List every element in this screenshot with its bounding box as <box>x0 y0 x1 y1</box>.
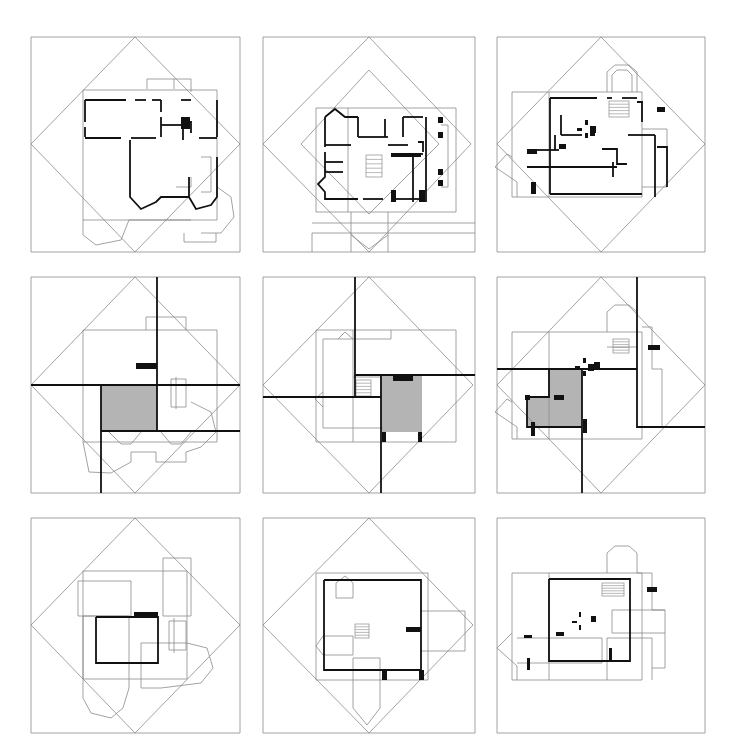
stair-outline <box>366 155 382 177</box>
stair-icon <box>356 380 371 396</box>
thin-line <box>316 636 353 655</box>
solid-wall-block <box>579 625 581 630</box>
thin-line <box>78 581 131 616</box>
heavy-wall-line <box>418 142 423 152</box>
thin-line <box>83 90 217 220</box>
thin-line <box>263 37 471 252</box>
solid-wall-block <box>418 432 422 442</box>
thin-line <box>607 305 637 332</box>
thin-line <box>323 330 391 339</box>
heavy-wall-line <box>637 277 705 427</box>
shaded-core-area <box>527 397 549 427</box>
solid-wall-block <box>391 190 396 202</box>
plan-panel-r2c1 <box>31 277 240 493</box>
thin-line <box>171 379 186 407</box>
stair-outline <box>609 101 629 117</box>
thin-line <box>495 399 512 412</box>
thin-line <box>495 154 512 167</box>
stair-icon <box>355 624 369 638</box>
thin-line <box>497 37 705 252</box>
heavy-wall-line <box>130 140 189 209</box>
diagram-figure <box>0 0 729 756</box>
solid-wall-block <box>647 587 657 592</box>
solid-wall-block <box>419 190 425 202</box>
heavy-wall-line <box>657 147 667 187</box>
thin-line <box>612 70 632 92</box>
solid-wall-block <box>591 616 596 622</box>
plan-drawing <box>31 518 240 733</box>
cross-mark <box>588 364 594 371</box>
plan-drawing <box>263 277 475 493</box>
plan-panel-r3c3 <box>497 518 705 733</box>
solid-wall-block <box>559 144 566 149</box>
heavy-wall-line <box>637 102 642 122</box>
solid-wall-block <box>406 627 421 632</box>
thin-line <box>316 573 428 680</box>
solid-wall-block <box>657 107 665 112</box>
solid-wall-block <box>554 395 564 400</box>
thin-line <box>31 518 240 733</box>
heavy-wall-line <box>355 277 475 375</box>
plan-drawing <box>31 277 240 493</box>
shaded-core-area <box>549 369 582 427</box>
stair-outline <box>356 380 371 396</box>
solid-wall-block <box>419 670 424 680</box>
solid-wall-block <box>393 376 413 381</box>
thin-line <box>83 220 129 245</box>
stair-outline <box>355 624 369 638</box>
thin-line <box>263 277 475 493</box>
thin-line <box>263 277 473 493</box>
solid-wall-block <box>438 117 443 123</box>
solid-wall-block <box>382 432 386 442</box>
thin-line <box>201 157 211 192</box>
solid-wall-block <box>134 612 158 617</box>
thin-line <box>184 233 216 242</box>
thin-line <box>512 573 642 680</box>
thin-line <box>642 327 662 427</box>
thin-line <box>512 92 642 197</box>
thin-line <box>607 546 637 573</box>
stair-outline <box>602 583 624 596</box>
thin-line <box>316 108 456 212</box>
thin-line <box>169 621 186 650</box>
solid-wall-block <box>181 117 190 129</box>
solid-wall-block <box>572 621 577 623</box>
thin-line <box>351 235 388 249</box>
plan-panel-r2c2 <box>263 277 475 493</box>
heavy-wall-line <box>96 617 158 663</box>
cross-mark <box>585 133 588 138</box>
stair-icon <box>609 101 629 117</box>
solid-wall-block <box>609 648 612 660</box>
cross-mark <box>585 120 588 125</box>
plan-drawing <box>263 518 475 733</box>
solid-wall-block <box>527 658 530 670</box>
shaded-core-area <box>101 385 157 431</box>
shaded-core-area <box>381 375 422 432</box>
thin-line <box>353 658 380 725</box>
thin-line <box>497 37 705 252</box>
plan-drawing <box>263 37 475 252</box>
thin-line <box>191 402 216 447</box>
thin-line <box>420 611 465 651</box>
plan-drawing <box>497 37 705 252</box>
heavy-wall-line <box>324 580 421 670</box>
solid-wall-block <box>438 169 443 175</box>
plan-drawing <box>497 518 705 733</box>
thin-line <box>263 37 475 252</box>
stair-icon <box>366 155 382 177</box>
thin-line <box>497 648 517 680</box>
stair-icon <box>613 339 629 353</box>
heavy-wall-line <box>318 152 358 199</box>
thin-line <box>497 277 705 493</box>
solid-wall-block <box>527 149 537 154</box>
thin-line <box>497 518 705 733</box>
plan-panel-r3c2 <box>263 518 475 733</box>
thin-line <box>495 167 517 197</box>
stair-icon <box>602 583 624 596</box>
thin-line <box>495 412 517 439</box>
heavy-wall-line <box>189 157 217 209</box>
heavy-wall-line <box>549 579 630 661</box>
solid-wall-block <box>594 362 600 369</box>
solid-wall-block <box>525 395 530 400</box>
solid-wall-block <box>531 422 535 436</box>
